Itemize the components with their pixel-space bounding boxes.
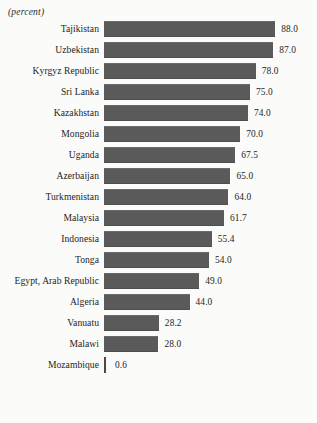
bar-row: Kazakhstan74.0 [0,104,317,125]
bar-row: Egypt, Arab Republic49.0 [0,272,317,293]
bar-category-label: Tajikistan [0,22,99,36]
bar-category-label: Algeria [0,295,99,309]
bar-category-label: Uzbekistan [0,43,99,57]
bar-category-label: Mozambique [0,358,99,372]
bar-row: Indonesia55.4 [0,230,317,251]
bar-category-label: Malawi [0,337,99,351]
bar-track: 64.0 [104,189,317,205]
bar-track: 0.6 [104,357,317,373]
bar-track: 28.2 [104,315,317,331]
bar [104,126,240,142]
bar [104,231,212,247]
bar-value-label: 54.0 [215,254,232,267]
bar [104,315,159,331]
bar-row: Turkmenistan64.0 [0,188,317,209]
bar-value-label: 28.2 [165,317,182,330]
bar-track: 87.0 [104,42,317,58]
bar [104,336,158,352]
bar-track: 88.0 [104,21,317,37]
bar-value-label: 74.0 [254,107,271,120]
bar-row: Vanuatu28.2 [0,314,317,335]
bar-value-label: 44.0 [196,296,213,309]
bar-track: 54.0 [104,252,317,268]
bar-row: Kyrgyz Republic78.0 [0,62,317,83]
bar-row: Tajikistan88.0 [0,20,317,41]
bar-value-label: 75.0 [256,86,273,99]
bar-value-label: 67.5 [241,149,258,162]
bar-value-label: 65.0 [236,170,253,183]
bar-value-label: 78.0 [262,65,279,78]
bar [104,252,209,268]
bar-track: 78.0 [104,63,317,79]
bar-value-label: 28.0 [164,338,181,351]
bar-value-label: 61.7 [230,212,247,225]
bar-track: 49.0 [104,273,317,289]
bar-track: 74.0 [104,105,317,121]
bar-value-label: 88.0 [281,23,298,36]
bar-category-label: Azerbaijan [0,169,99,183]
bar-category-label: Indonesia [0,232,99,246]
bar-track: 28.0 [104,336,317,352]
bar-row: Tonga54.0 [0,251,317,272]
bar-row: Algeria44.0 [0,293,317,314]
bar-value-label: 55.4 [218,233,235,246]
bar-track: 55.4 [104,231,317,247]
bar-row: Mozambique0.6 [0,356,317,377]
bar [104,42,273,58]
bar [104,210,224,226]
horizontal-bar-chart: Tajikistan88.0Uzbekistan87.0Kyrgyz Repub… [0,20,317,377]
bar-row: Azerbaijan65.0 [0,167,317,188]
bar-value-label: 64.0 [234,191,251,204]
bar-row: Sri Lanka75.0 [0,83,317,104]
bar-track: 70.0 [104,126,317,142]
bar-category-label: Uganda [0,148,99,162]
bar-category-label: Kazakhstan [0,106,99,120]
bar [104,105,248,121]
bar-category-label: Tonga [0,253,99,267]
bar-category-label: Turkmenistan [0,190,99,204]
bar [104,147,235,163]
bar-category-label: Vanuatu [0,316,99,330]
axis-unit-label: (percent) [8,7,44,17]
bar-category-label: Sri Lanka [0,85,99,99]
bar-value-label: 70.0 [246,128,263,141]
bar-value-label: 87.0 [279,44,296,57]
bar-category-label: Egypt, Arab Republic [0,274,99,288]
bar [104,357,106,373]
bar [104,168,230,184]
bar [104,84,250,100]
bar-track: 75.0 [104,84,317,100]
bar [104,63,256,79]
bar-row: Malaysia61.7 [0,209,317,230]
bar-category-label: Kyrgyz Republic [0,64,99,78]
bar [104,294,190,310]
bar-row: Malawi28.0 [0,335,317,356]
bar [104,273,199,289]
bar-track: 65.0 [104,168,317,184]
bar-row: Mongolia70.0 [0,125,317,146]
bar-row: Uzbekistan87.0 [0,41,317,62]
bar-category-label: Mongolia [0,127,99,141]
bar-track: 67.5 [104,147,317,163]
bar-category-label: Malaysia [0,211,99,225]
bar-track: 61.7 [104,210,317,226]
bar-value-label: 0.6 [115,359,127,372]
bar-row: Uganda67.5 [0,146,317,167]
bar [104,189,228,205]
bar [104,21,275,37]
bar-value-label: 49.0 [205,275,222,288]
bar-track: 44.0 [104,294,317,310]
